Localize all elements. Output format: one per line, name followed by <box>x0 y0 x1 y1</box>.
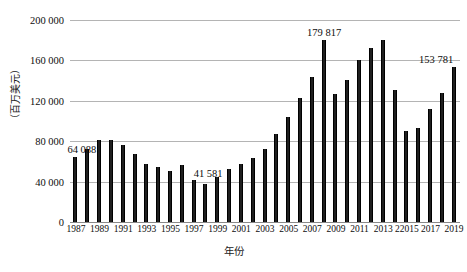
bar <box>440 93 444 222</box>
bar <box>109 140 113 222</box>
bar <box>192 180 196 222</box>
bar <box>239 164 243 222</box>
plot-area: 64 08841 581179 817153 781 <box>70 20 460 222</box>
bar <box>333 94 337 222</box>
bar <box>393 90 397 222</box>
bar <box>381 40 385 222</box>
data-label: 179 817 <box>307 27 341 38</box>
bar <box>227 169 231 222</box>
x-tick-label: 2007 <box>303 224 322 234</box>
bar <box>416 128 420 222</box>
bar <box>357 60 361 222</box>
x-tick-label: 2003 <box>256 224 275 234</box>
bar <box>180 165 184 222</box>
x-tick-label: 1987 <box>66 224 85 234</box>
x-tick-label: 2011 <box>350 224 369 234</box>
bar <box>97 140 101 222</box>
y-tick-label: 160 000 <box>30 55 64 66</box>
bar <box>85 149 89 222</box>
y-axis-ticks: 200 000160 000120 00080 00040 0000 <box>0 0 70 272</box>
bar <box>144 164 148 222</box>
x-tick-label: 1989 <box>90 224 109 234</box>
bar <box>310 77 314 222</box>
bars <box>70 20 460 222</box>
data-label: 41 581 <box>194 168 223 179</box>
bar <box>428 109 432 222</box>
data-label: 153 781 <box>419 54 453 65</box>
x-tick-label: 2013 <box>374 224 393 234</box>
bar <box>121 145 125 222</box>
x-axis-ticks: 1987198919911993199519971999200120032005… <box>70 224 460 240</box>
x-axis-line <box>70 222 460 223</box>
x-tick-label: 22015 <box>395 224 419 234</box>
bar <box>133 154 137 222</box>
y-tick-label: 200 000 <box>30 15 64 26</box>
bar <box>263 149 267 222</box>
bar <box>322 40 326 222</box>
bar <box>203 184 207 222</box>
bar <box>345 80 349 222</box>
bar <box>215 177 219 222</box>
bar <box>168 171 172 222</box>
bar <box>251 158 255 222</box>
x-tick-label: 2001 <box>232 224 251 234</box>
y-tick-label: 0 <box>59 217 64 228</box>
x-tick-label: 1997 <box>185 224 204 234</box>
x-tick-label: 1995 <box>161 224 180 234</box>
x-axis-title: 年份 <box>0 243 467 258</box>
bar <box>274 134 278 222</box>
bar <box>452 67 456 222</box>
y-tick-label: 120 000 <box>30 95 64 106</box>
x-tick-label: 1993 <box>137 224 156 234</box>
x-tick-label: 2017 <box>421 224 440 234</box>
x-tick-label: 2019 <box>445 224 464 234</box>
data-label: 64 088 <box>67 144 96 155</box>
x-tick-label: 1991 <box>114 224 133 234</box>
bar <box>369 48 373 222</box>
bar <box>286 117 290 222</box>
bar <box>298 98 302 222</box>
x-tick-label: 2005 <box>279 224 298 234</box>
bar-chart: （百万美元） 200 000160 000120 00080 00040 000… <box>0 0 467 272</box>
x-tick-label: 1999 <box>208 224 227 234</box>
x-tick-label: 2009 <box>326 224 345 234</box>
y-tick-label: 80 000 <box>35 136 64 147</box>
bar <box>73 157 77 222</box>
bar <box>156 167 160 222</box>
bar <box>404 131 408 222</box>
y-tick-label: 40 000 <box>35 176 64 187</box>
